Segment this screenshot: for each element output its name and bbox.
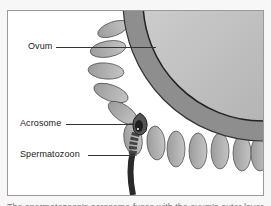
- leader-line-acrosome: [66, 124, 134, 125]
- diagram-frame: Ovum Acrosome Spermatozoon: [7, 10, 264, 196]
- label-acrosome: Acrosome: [20, 118, 61, 128]
- sperm-tail: [131, 151, 134, 195]
- fertilization-illustration: [8, 11, 263, 195]
- leader-line-spermatozoon: [88, 155, 130, 156]
- leader-line-ovum: [56, 47, 156, 48]
- figure-caption: The spermatozoon's acrosome fuses with t…: [7, 198, 265, 206]
- label-spermatozoon: Spermatozoon: [20, 149, 80, 159]
- label-ovum: Ovum: [28, 41, 52, 51]
